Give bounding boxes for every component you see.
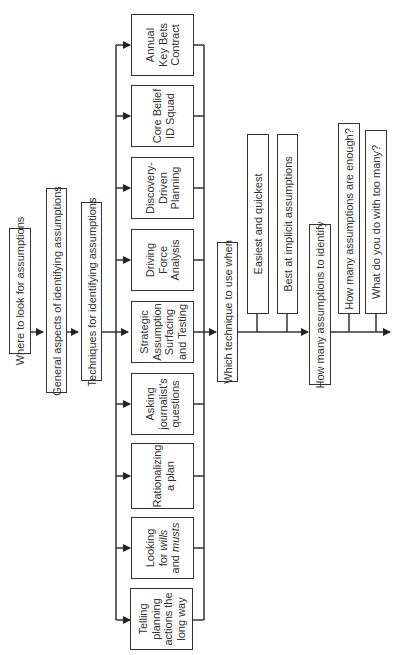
branch-label: How many assumptions are enough? bbox=[343, 128, 356, 310]
technique-looking-wills-musts: Lookingfor willsand musts bbox=[131, 517, 194, 579]
which-technique-label: Which technique to use when bbox=[221, 240, 234, 384]
branch-what-too-many: What do you do with too many? bbox=[365, 130, 387, 314]
technique-annual-key-bets: AnnualKey BetsContract bbox=[131, 14, 194, 76]
how-many-label: How many assumptions to identify bbox=[314, 221, 327, 388]
technique-label: Askingjournalist'squestions bbox=[144, 378, 182, 430]
technique-label: Core BeliefID Squad bbox=[150, 89, 175, 143]
technique-core-belief: Core BeliefID Squad bbox=[131, 85, 194, 147]
general-aspects-box: General aspects of identifying assumptio… bbox=[46, 188, 67, 393]
which-technique-box: Which technique to use when bbox=[217, 242, 238, 382]
technique-driving-force: DrivingForceAnalysis bbox=[131, 229, 194, 291]
branch-label: What do you do with too many? bbox=[370, 145, 383, 299]
technique-discovery-driven: Discovery-DrivenPlanning bbox=[131, 157, 194, 219]
where-to-look-label: Where to look for assumptions bbox=[14, 217, 27, 366]
branch-easiest-quickest: Easiest and quickest bbox=[247, 134, 269, 314]
techniques-box: Techniques for identifying assumptions bbox=[81, 202, 102, 381]
branch-label: Best at implicit assumptions bbox=[281, 156, 294, 292]
technique-rationalizing: Rationalizinga plan bbox=[131, 443, 194, 509]
technique-telling-long-way: Tellingplanningactions thelong way bbox=[130, 588, 193, 650]
how-many-box: How many assumptions to identify bbox=[309, 224, 331, 385]
branch-how-many-enough: How many assumptions are enough? bbox=[338, 123, 360, 314]
technique-label: StrategicAssumptionSurfacingand Testing bbox=[138, 303, 188, 360]
technique-label: DrivingForceAnalysis bbox=[144, 240, 182, 281]
technique-asking-journalist: Askingjournalist'squestions bbox=[131, 373, 194, 435]
technique-label: AnnualKey BetsContract bbox=[144, 23, 182, 67]
where-to-look-box: Where to look for assumptions bbox=[9, 228, 31, 354]
technique-label: Lookingfor willsand musts bbox=[144, 523, 182, 574]
branch-best-implicit: Best at implicit assumptions bbox=[277, 134, 298, 314]
techniques-label: Techniques for identifying assumptions bbox=[85, 197, 98, 386]
technique-label: Rationalizinga plan bbox=[150, 445, 175, 508]
technique-label: Discovery-DrivenPlanning bbox=[144, 162, 182, 214]
technique-strategic-assumption: StrategicAssumptionSurfacingand Testing bbox=[131, 301, 194, 363]
general-aspects-label: General aspects of identifying assumptio… bbox=[50, 186, 63, 396]
branch-label: Easiest and quickest bbox=[252, 174, 265, 275]
technique-label: Tellingplanningactions thelong way bbox=[137, 592, 187, 645]
